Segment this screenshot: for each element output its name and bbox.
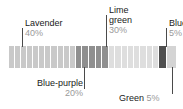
label-green-pct: 5% [147,93,160,103]
bar-segment-strip[interactable] [89,46,96,68]
bar-segment-strip[interactable] [96,46,103,68]
leader-line-blue-purple [84,67,85,89]
label-lime-green-name-line2: green [109,15,132,25]
bar-segment-strip[interactable] [167,46,175,68]
leader-line-blue [166,28,167,47]
bar-segment-strip[interactable] [159,46,167,68]
label-lavender-pct: 40% [25,28,63,38]
label-green-name: Green [119,93,144,103]
label-lavender-name: Lavender [25,18,63,28]
label-lime-green: Lime green 30% [109,5,132,35]
label-blue-pct: 5% [169,28,183,38]
bar-segment-strip[interactable] [102,46,109,68]
label-lavender: Lavender 40% [25,18,63,38]
leader-line-green [172,67,173,94]
label-lime-green-pct: 30% [109,25,132,35]
label-lime-green-name-line1: Lime [109,5,132,15]
leader-line-lime-green [106,15,107,47]
label-blue-purple-name: Blue-purple [31,78,83,88]
label-blue-purple: Blue-purple 20% [31,78,83,98]
stacked-bar-figure: Lavender 40% Lime green 30% Blue 5% Blue… [0,0,183,109]
label-blue: Blue 5% [169,18,183,38]
label-blue-purple-pct: 20% [31,88,83,98]
bar-segment-strip[interactable] [76,46,83,68]
label-blue-name: Blue [169,18,183,28]
stacked-bar-track[interactable] [9,46,176,68]
label-green: Green 5% [119,93,160,103]
bar-segment-strip[interactable] [82,46,89,68]
leader-line-lavender [22,28,23,47]
